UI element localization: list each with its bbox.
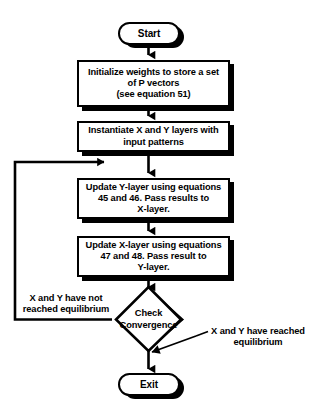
terminator-exit[interactable] xyxy=(118,373,180,396)
decision-check-convergence[interactable] xyxy=(116,287,181,351)
terminator-start[interactable] xyxy=(118,22,180,45)
edge-yes-branch-leader-tail xyxy=(196,332,208,337)
flowchart-canvas: Start Initialize weights to store a set … xyxy=(0,0,313,411)
process-update-x-layer[interactable] xyxy=(77,236,230,277)
process-instantiate-layers[interactable] xyxy=(77,121,230,152)
process-update-y-layer[interactable] xyxy=(77,178,230,219)
process-init-weights[interactable] xyxy=(77,60,230,107)
